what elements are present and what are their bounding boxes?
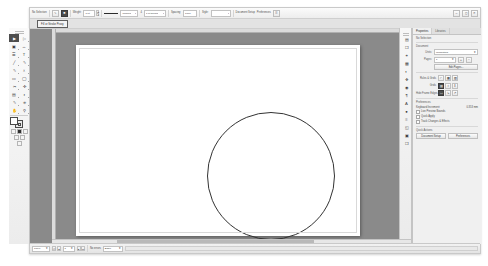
content-collector-tool[interactable]: ☰ — [9, 50, 19, 58]
gradient-swatch-tool[interactable]: ▤ — [9, 90, 19, 98]
type-tool[interactable]: T — [19, 50, 29, 58]
show-rulers-icon[interactable]: ⌐ — [438, 75, 444, 81]
pages-row: Pages: 1 ▾ + − — [416, 57, 478, 63]
gap-tool[interactable]: ↔ — [19, 42, 29, 50]
note-tool[interactable]: ✎ — [9, 98, 19, 106]
normal-mode-button[interactable] — [11, 129, 16, 134]
show-guides-icon[interactable]: ▨ — [452, 75, 458, 81]
artboard[interactable] — [76, 45, 360, 236]
edit-pages-row: Edit Pages... — [416, 64, 478, 70]
document-setup-label[interactable]: Document Setup — [236, 12, 255, 15]
view-mode-row — [9, 135, 29, 140]
pencil-tool[interactable]: ✎ — [9, 66, 19, 74]
previous-page-button[interactable]: ◀ — [57, 246, 61, 251]
hand-tool[interactable]: ✋ — [9, 106, 19, 114]
page-tool[interactable]: ▣ — [9, 42, 19, 50]
checkbox-box[interactable] — [416, 110, 420, 114]
checkbox-track-changes[interactable]: Track Changes & Effects — [416, 120, 478, 124]
units-label: Units: — [416, 51, 432, 54]
direct-selection-tool[interactable]: ▷ — [19, 34, 29, 42]
quick-actions-header: Quick Actions — [416, 129, 478, 132]
selection-tool[interactable]: ▶ — [9, 34, 19, 42]
circle-shape[interactable] — [207, 112, 335, 240]
apply-none-button[interactable] — [20, 135, 25, 140]
scissors-tool[interactable]: ✂ — [9, 82, 19, 90]
eyedropper-tool[interactable]: ⎈ — [19, 98, 29, 106]
fill-stroke-proxy[interactable] — [9, 117, 29, 128]
units-select[interactable]: Millimeters ▾ — [434, 49, 478, 55]
page-number-select[interactable]: 1 ▾ — [63, 246, 75, 252]
delete-page-icon[interactable]: − — [466, 57, 472, 63]
divider — [416, 126, 478, 127]
tab-libraries[interactable]: Libraries — [432, 28, 449, 34]
screen-mode-button[interactable] — [17, 141, 22, 146]
fill-swatch-icon[interactable]: ■ — [61, 10, 68, 17]
divider — [416, 98, 478, 99]
divider — [416, 42, 478, 43]
preferences-label[interactable]: Preferences — [257, 12, 271, 15]
hide-frame-edges-icon[interactable]: ▭ — [438, 90, 444, 96]
stroke-type-select[interactable]: Uniform ▾ — [120, 10, 138, 17]
guides-icons: ▤ ☿ ‖ — [438, 83, 458, 89]
chevron-down-icon: ▾ — [228, 12, 229, 14]
keyboard-increment-row: Keyboard Increment: 0.353 mm — [416, 106, 478, 109]
free-transform-tool[interactable]: ✣ — [19, 82, 29, 90]
lock-column-guides-icon[interactable]: ‖ — [452, 83, 458, 89]
show-grid-icon[interactable]: ▦ — [445, 75, 451, 81]
preferences-button[interactable]: Preferences — [448, 133, 478, 139]
document-setup-button[interactable]: Document Setup — [416, 133, 446, 139]
stroke-weight-input[interactable]: 1 pt — [83, 10, 95, 17]
divider — [10, 115, 28, 116]
minimize-button[interactable]: – — [453, 10, 460, 17]
pen-tool-icon[interactable]: ✎ — [52, 10, 59, 17]
close-button[interactable]: ✕ — [471, 10, 478, 17]
preflight-profile-select[interactable]: Basic ▾ — [103, 246, 123, 252]
checkbox-quick-apply[interactable]: Quick Apply — [416, 115, 478, 119]
last-page-button[interactable]: ⏭ — [81, 246, 85, 251]
status-bar: 100% ▾ ⏮ ◀ 1 ▾ ▶ ⏭ No errors Basic ▾ — [30, 243, 480, 253]
checkbox-box[interactable] — [416, 115, 420, 119]
spacing-input[interactable]: 1000 — [183, 10, 197, 17]
show-text-threads-icon[interactable]: ↳ — [445, 90, 451, 96]
chevron-down-icon: ▾ — [71, 247, 73, 250]
screen-mode-row — [9, 129, 29, 134]
tab-properties[interactable]: Properties — [413, 28, 432, 34]
maximize-button[interactable]: ◻ — [462, 10, 469, 17]
checkbox-live-preview-bounds[interactable]: Live Preview Bounds — [416, 110, 478, 114]
corner-style-select[interactable]: 1 pt Round ▾ — [144, 10, 166, 17]
zoom-tool[interactable]: ⚲ — [19, 106, 29, 114]
tools-panel: ▶ ▷ ▣ ↔ ☰ T ╱ ✎ ✎ ☓ ▭ ◯ ✂ ✣ ▤ ◑ ✎ ⎈ ✋ ⚲ — [9, 28, 30, 244]
rectangle-frame-tool[interactable]: ☓ — [19, 66, 29, 74]
panel-menu-icon[interactable]: ☰ — [273, 10, 280, 17]
ellipse-tool[interactable]: ◯ — [19, 74, 29, 82]
frame-edges-label: Hide Frame Edges — [416, 92, 436, 95]
pen-tool[interactable]: ✎ — [19, 58, 29, 66]
pages-input[interactable]: 1 ▾ — [434, 57, 456, 63]
style-select[interactable]: ▾ — [211, 10, 231, 17]
gradient-feather-tool[interactable]: ◑ — [19, 90, 29, 98]
stroke-style-preview — [104, 10, 118, 17]
stroke-weight-stepper[interactable]: ▲▼ — [96, 10, 99, 16]
add-page-icon[interactable]: + — [458, 57, 464, 63]
rectangle-tool[interactable]: ▭ — [9, 74, 19, 82]
page-navigation: ⏮ ◀ — [52, 246, 61, 251]
edit-pages-button[interactable]: Edit Pages... — [434, 64, 478, 70]
smart-guides-icon[interactable]: ▤ — [438, 83, 444, 89]
checkbox-box[interactable] — [416, 120, 420, 124]
frame-edges-row: Hide Frame Edges ▭ ↳ ↱ — [416, 90, 478, 96]
zoom-level-select[interactable]: 100% ▾ — [32, 246, 50, 252]
lock-guides-icon[interactable]: ☿ — [445, 83, 451, 89]
panel-dock: ▤ ❐ ⚭ ▦ ◐ ❖ ◉ ¶ A ● ≡ ◱ ▣ ❒ — [399, 28, 412, 244]
fill-swatch[interactable] — [10, 117, 18, 125]
corner-count-label: 4 — [140, 12, 141, 15]
tools-panel-grip[interactable] — [9, 30, 29, 33]
checkbox-label: Live Preview Bounds — [421, 110, 445, 113]
first-page-button[interactable]: ⏮ — [52, 246, 56, 251]
keyboard-increment-value[interactable]: 0.353 mm — [466, 106, 478, 109]
show-assigned-frames-icon[interactable]: ↱ — [452, 90, 458, 96]
next-page-button[interactable]: ▶ — [77, 246, 81, 251]
line-tool[interactable]: ╱ — [9, 58, 19, 66]
preview-mode-button[interactable] — [17, 129, 22, 134]
bleed-mode-button[interactable] — [23, 129, 28, 134]
presentation-mode-button[interactable] — [14, 135, 19, 140]
